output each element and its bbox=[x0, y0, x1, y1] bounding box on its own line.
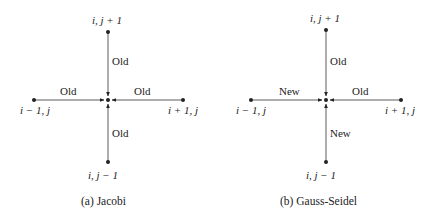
node-bottom: i, j − 1 bbox=[306, 170, 336, 181]
edge-label-right: Old bbox=[352, 86, 369, 97]
jacobi-stencil bbox=[32, 30, 185, 164]
gauss-seidel-stencil bbox=[249, 28, 403, 164]
node-bottom: i, j − 1 bbox=[88, 170, 118, 181]
caption-gauss-seidel: (b) Gauss-Seidel bbox=[280, 196, 357, 208]
edge-label-left: Old bbox=[60, 86, 77, 97]
node-top: i, j + 1 bbox=[92, 15, 122, 26]
stencil-diagram bbox=[0, 0, 439, 223]
node-left: i − 1, j bbox=[20, 105, 50, 116]
edge-label-bottom: New bbox=[330, 128, 351, 139]
edge-label-left: New bbox=[279, 86, 300, 97]
edge-label-right: Old bbox=[134, 86, 151, 97]
edge-label-bottom: Old bbox=[112, 128, 129, 139]
node-right: i + 1, j bbox=[385, 105, 415, 116]
node-right: i + 1, j bbox=[168, 105, 198, 116]
node-left: i − 1, j bbox=[236, 105, 266, 116]
edge-label-top: Old bbox=[112, 56, 129, 67]
node-top: i, j + 1 bbox=[310, 13, 340, 24]
edge-label-top: Old bbox=[330, 56, 347, 67]
caption-jacobi: (a) Jacobi bbox=[81, 196, 126, 208]
